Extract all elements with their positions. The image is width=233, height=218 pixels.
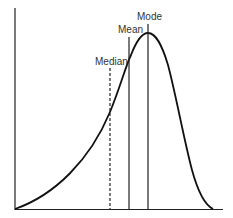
- skewed-distribution-diagram: [0, 0, 233, 218]
- median-label: Median: [95, 57, 128, 67]
- mean-label: Mean: [118, 25, 143, 35]
- mode-label: Mode: [137, 12, 162, 22]
